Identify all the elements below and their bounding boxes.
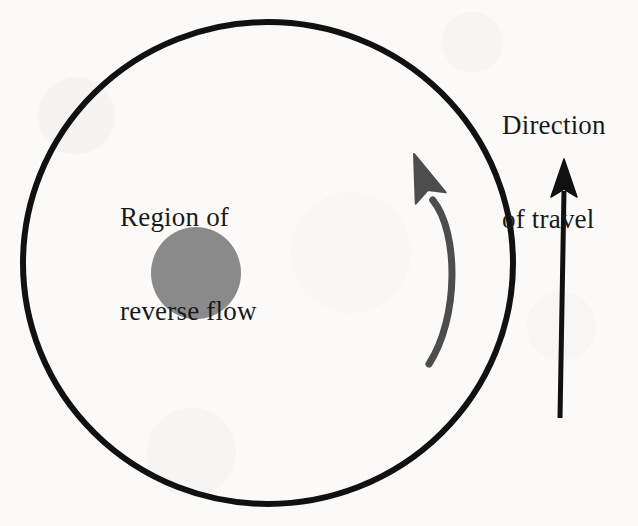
figure-root: Region of reverse flow Direction of trav… xyxy=(0,0,638,526)
curved-arrow-head xyxy=(414,154,446,204)
label-region-of-reverse-flow: Region of reverse flow xyxy=(120,139,257,390)
label-reverse-flow-line2: reverse flow xyxy=(120,296,257,327)
label-direction-travel-line2: of travel xyxy=(502,204,606,235)
label-direction-of-travel: Direction of travel xyxy=(502,47,606,298)
label-direction-travel-line1: Direction xyxy=(502,110,606,141)
curved-arrow-shaft xyxy=(429,200,452,364)
curved-arrow xyxy=(414,154,452,364)
outer-circle xyxy=(23,22,513,504)
label-reverse-flow-line1: Region of xyxy=(120,202,257,233)
